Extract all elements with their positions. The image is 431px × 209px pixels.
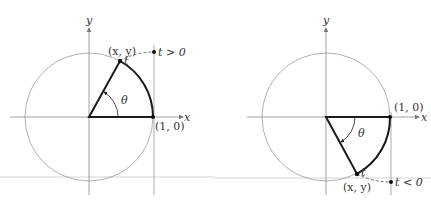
figure-negative-t: y x (x, y) (1, 0) θ t t < 0 (247, 14, 428, 195)
x-axis-label: x (184, 111, 191, 124)
angle-label: θ (358, 127, 365, 140)
arc-label: t (361, 166, 366, 179)
angle-label: θ (121, 94, 128, 107)
t-condition: t > 0 (158, 46, 186, 59)
point-1-0 (151, 115, 155, 119)
y-axis-label: y (322, 14, 330, 27)
point-xy (355, 172, 359, 176)
point-1-0 (388, 115, 392, 119)
unit-point-label: (1, 0) (394, 101, 424, 114)
angle-arc (341, 117, 355, 142)
point-xy-label: (x, y) (108, 45, 136, 58)
y-axis-label: y (85, 14, 93, 27)
arc-label: t (124, 55, 129, 68)
point-xy-label: (x, y) (343, 181, 371, 194)
sector (326, 117, 390, 174)
t-condition: t < 0 (395, 176, 423, 189)
point-xy (118, 59, 122, 63)
sector (89, 61, 153, 117)
point-t (389, 180, 393, 184)
point-t (152, 50, 156, 54)
unit-circle-diagrams: y x (x, y) (1, 0) θ t t > 0 y x (x, y) (… (0, 0, 431, 209)
unit-point-label: (1, 0) (155, 120, 185, 133)
figure-positive-t: y x (x, y) (1, 0) θ t t > 0 (10, 14, 191, 195)
angle-arc (104, 92, 118, 117)
